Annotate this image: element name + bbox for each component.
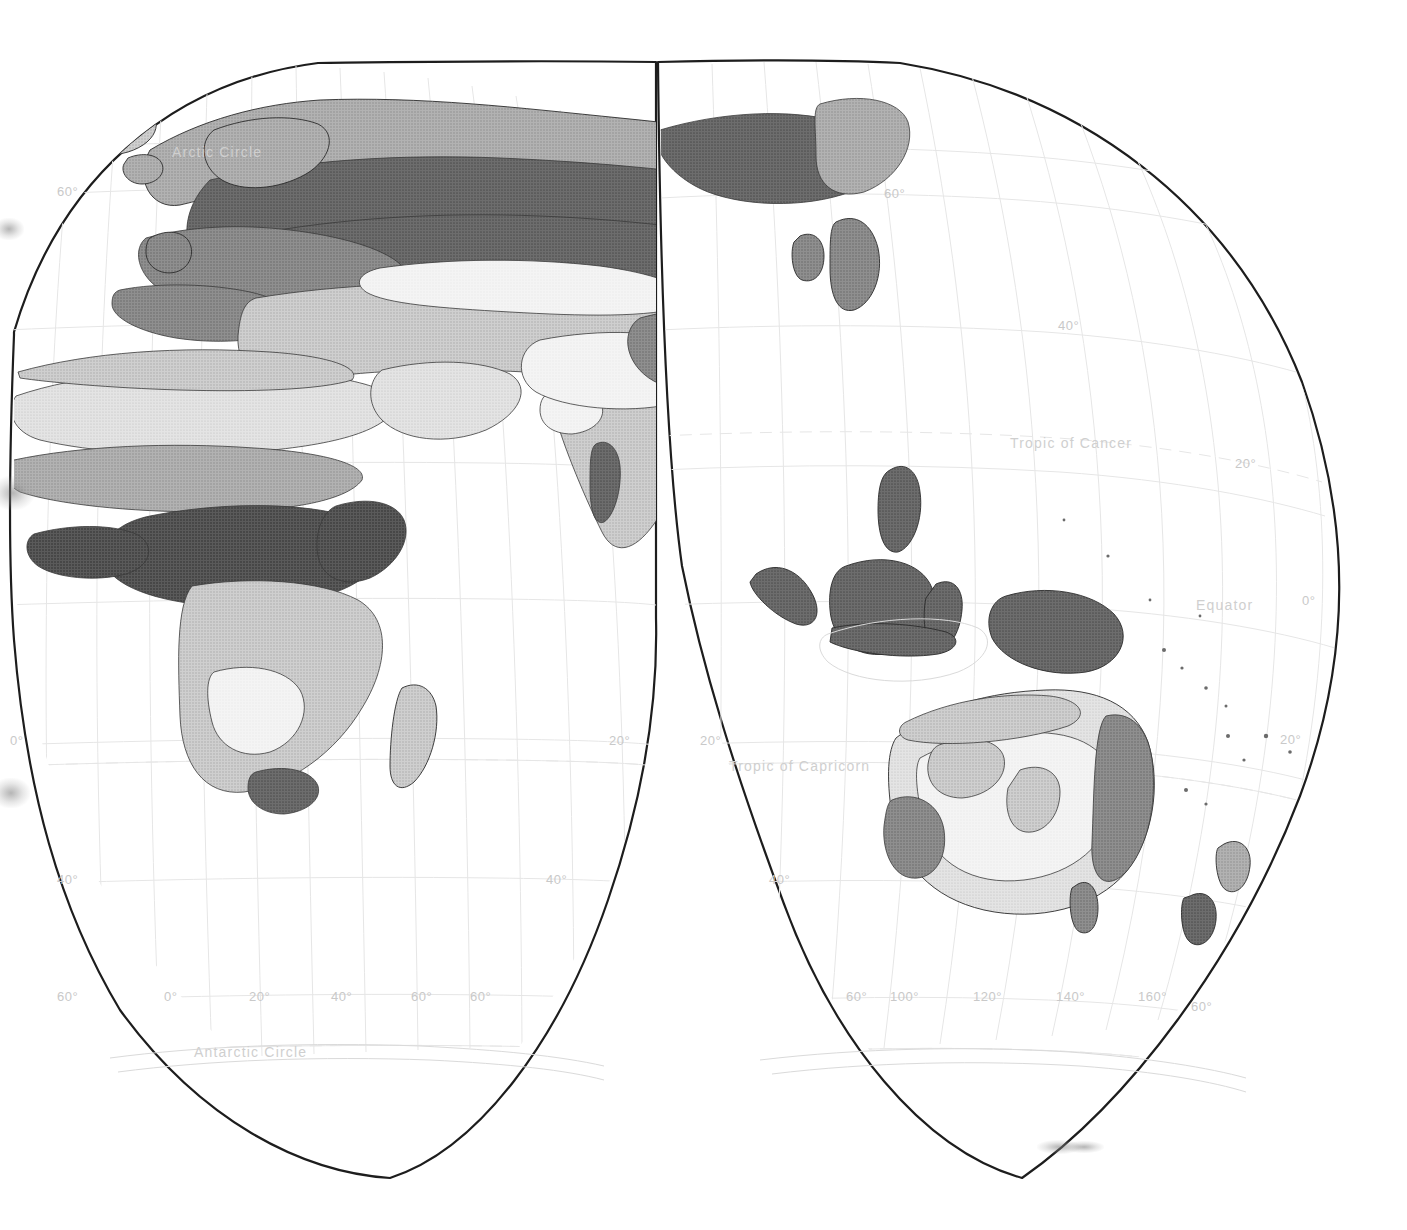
antarctic-circle-line-west	[70, 1045, 640, 1052]
region-southeast-asia-monsoon	[671, 392, 750, 526]
lat-label: 60°	[1191, 999, 1212, 1014]
region-tasmania	[1070, 882, 1098, 932]
lon-label: 0°	[164, 989, 177, 1004]
region-sumatra	[750, 567, 817, 625]
region-new-zealand-south	[1182, 893, 1217, 944]
region-arabian-desert	[371, 362, 521, 439]
region-east-asia-temperate	[628, 305, 840, 397]
region-philippines	[878, 466, 921, 552]
lat-label: 40°	[769, 872, 790, 887]
region-greenland-edge	[11, 96, 156, 157]
longitude-labels: 0° 20° 40° 60° 100° 120° 140° 160°	[164, 989, 1167, 1004]
region-china-subtropical	[688, 359, 811, 434]
tropic-of-cancer-label: Tropic of Cancer	[1010, 435, 1132, 451]
region-kamchatka-tundra	[815, 98, 910, 194]
region-iceland	[123, 155, 163, 184]
world-map-svg[interactable]: .par,.mer{fill:none;stroke:#e6e6e6;strok…	[0, 0, 1407, 1230]
region-japan	[830, 218, 880, 310]
region-madagascar	[390, 685, 437, 788]
lat-label: 0°	[10, 733, 23, 748]
arctic-circle-label: Arctic Circle	[172, 144, 262, 160]
lat-label: 20°	[1280, 732, 1301, 747]
lat-label: 40°	[546, 872, 567, 887]
lat-label: 0°	[1302, 593, 1315, 608]
tropic-of-capricorn-label: Tropic of Capricorn	[729, 758, 870, 774]
lat-label: 60°	[57, 184, 78, 199]
region-tibet-highland	[521, 332, 712, 408]
graticule-lines-east	[660, 62, 1335, 1073]
region-new-guinea	[989, 590, 1123, 673]
lon-label: 140°	[1056, 989, 1085, 1004]
antarctic-circle-label: Antarctic Circle	[194, 1044, 307, 1060]
lat-label: 20°	[700, 733, 721, 748]
tropic-cancer-line	[660, 432, 1322, 482]
lat-label: 20°	[609, 733, 630, 748]
region-new-zealand-north	[1216, 841, 1250, 891]
lat-label: 40°	[1058, 318, 1079, 333]
region-australia-east-coast-temperate	[1092, 715, 1154, 882]
lon-label: 120°	[973, 989, 1002, 1004]
region-british-isles	[146, 232, 192, 273]
lon-label: 100°	[890, 989, 919, 1004]
lon-label: 160°	[1138, 989, 1167, 1004]
region-south-africa-temperate	[248, 768, 319, 814]
region-west-africa-forest	[27, 527, 149, 579]
equator-label: Equator	[1196, 597, 1253, 613]
landmasses-western-lobe	[7, 99, 889, 814]
lon-label: 40°	[331, 989, 352, 1004]
region-sahel-semi-arid	[7, 445, 362, 512]
lat-label: 60°	[846, 989, 867, 1004]
map-canvas[interactable]: .par,.mer{fill:none;stroke:#e6e6e6;strok…	[0, 0, 1407, 1230]
lat-label: 60°	[57, 989, 78, 1004]
lon-label: 60°	[411, 989, 432, 1004]
region-east-africa-highland	[317, 501, 406, 582]
region-korea	[792, 234, 824, 281]
lat-label: 40°	[57, 872, 78, 887]
lon-label: 20°	[249, 989, 270, 1004]
lat-label: 60°	[470, 989, 491, 1004]
lat-label: 60°	[884, 186, 905, 201]
lat-label: 20°	[1235, 456, 1256, 471]
